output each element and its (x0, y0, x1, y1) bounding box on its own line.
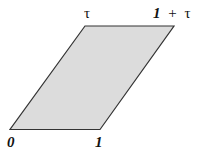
label-one-plus-tau: 1 + τ (153, 5, 191, 21)
label-one-plus-tau-tau: τ (184, 5, 190, 21)
lattice-diagram: τ 1 + τ 0 1 (0, 0, 203, 155)
label-tau: τ (84, 5, 90, 21)
label-one-plus-tau-plus: + (168, 5, 176, 21)
label-origin: 0 (7, 134, 15, 150)
label-one-plus-tau-one: 1 (153, 5, 161, 21)
label-one: 1 (95, 134, 103, 150)
parallelogram (10, 26, 174, 130)
